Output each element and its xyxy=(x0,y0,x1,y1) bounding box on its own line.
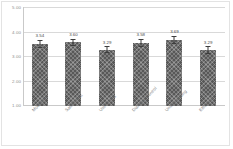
error-bar-cap-bottom xyxy=(138,46,143,47)
x-label-slot-5: Understanding xyxy=(156,107,189,148)
error-bar-cap-bottom xyxy=(37,47,42,48)
bar-value-label: 3.58 xyxy=(137,32,146,37)
error-bar-cap-top xyxy=(105,46,110,47)
error-bar-cap-bottom xyxy=(71,45,76,46)
y-axis-tick-labels: 5.00 4.00 3.00 2.00 1.00 xyxy=(0,0,23,113)
bar-value-label: 3.69 xyxy=(170,29,179,34)
bar-slot-efficiency: 3.29 xyxy=(191,7,224,106)
error-bar xyxy=(174,36,175,44)
bar-slot-usefulness: 3.29 xyxy=(90,7,123,106)
bar-chart: 5.00 4.00 3.00 2.00 1.00 3.54 3. xyxy=(0,0,233,149)
bar-value-label: 3.29 xyxy=(103,40,112,45)
error-bar-cap-top xyxy=(138,39,143,40)
error-bar-cap-bottom xyxy=(206,53,211,54)
error-bar xyxy=(73,39,74,46)
plot-area: 3.54 3.60 3.29 xyxy=(23,7,225,106)
error-bar-cap-top xyxy=(172,36,177,37)
error-bar-cap-top xyxy=(37,40,42,41)
y-tick-label-5: 5.00 xyxy=(12,5,21,10)
bar-value-label: 3.29 xyxy=(204,40,213,45)
y-tick-label-3: 3.00 xyxy=(12,54,21,59)
y-tick-label-1: 1.00 xyxy=(12,103,21,108)
error-bar xyxy=(208,46,209,54)
bar-value-label: 3.60 xyxy=(69,32,78,37)
error-bar xyxy=(39,40,40,48)
bar-slot-satisfaction: 3.60 xyxy=(57,7,90,106)
x-label-slot-1: Motivation xyxy=(23,107,56,148)
bar-value-label: 3.54 xyxy=(36,33,45,38)
x-axis-category-labels: Motivation Satisfaction Usefulness Dialo… xyxy=(23,107,225,148)
error-bar-cap-bottom xyxy=(172,43,177,44)
y-tick-label-2: 2.00 xyxy=(12,79,21,84)
error-bar-cap-top xyxy=(206,46,211,47)
x-label-slot-2: Satisfaction xyxy=(56,107,89,148)
bar-series: 3.54 3.60 3.29 xyxy=(23,7,225,106)
error-bar xyxy=(140,39,141,47)
error-bar-cap-bottom xyxy=(105,52,110,53)
x-label-slot-4: Dialogue Control xyxy=(123,107,156,148)
y-tick-label-4: 4.00 xyxy=(12,30,21,35)
x-label-slot-6: Efficiency xyxy=(190,107,223,148)
error-bar-cap-top xyxy=(71,39,76,40)
error-bar xyxy=(107,46,108,53)
bar-slot-motivation: 3.54 xyxy=(23,7,56,106)
x-label-slot-3: Usefulness xyxy=(90,107,123,148)
